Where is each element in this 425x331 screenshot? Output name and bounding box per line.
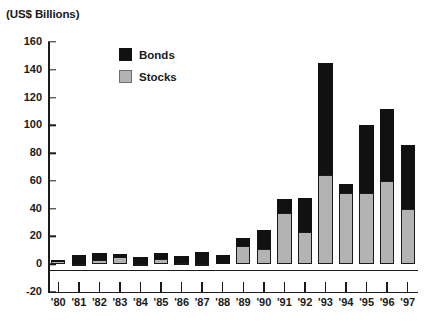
bar-segment-bonds [277,199,291,213]
stacked-bar-chart: (US$ Billions) 160140120100806040200-20 … [0,0,425,331]
legend-label-stocks: Stocks [139,71,177,83]
bar-segment-bonds [133,257,147,264]
x-tick [58,282,59,293]
bar-segment-bonds [92,253,106,260]
y-axis-title: (US$ Billions) [6,8,79,20]
legend-item-stocks: Stocks [119,70,177,83]
x-tick [386,282,387,293]
bar-segment-stocks [174,263,188,265]
x-tick-label: '89 [236,296,251,308]
x-tick [222,282,223,293]
y-tick-label: 60 [2,174,42,186]
y-tick [48,69,56,70]
bar-segment-stocks [318,175,332,264]
y-tick-label: 100 [2,118,42,130]
bar-segment-bonds [195,252,209,263]
bar-segment-bonds [236,238,250,246]
x-tick [304,282,305,293]
bar-segment-stocks [236,246,250,264]
bonds-swatch-icon [119,48,132,61]
x-tick [181,282,182,293]
bar-segment-bonds [359,125,373,193]
bar-segment-stocks [359,193,373,264]
x-tick-label: '82 [92,296,107,308]
bar-segment-stocks [277,213,291,264]
x-tick [345,282,346,293]
y-axis-spine [48,42,50,292]
bar-segment-stocks [195,264,209,266]
x-tick-label: '94 [339,296,354,308]
x-tick-label: '93 [318,296,333,308]
x-tick [140,282,141,293]
x-tick-label: '81 [71,296,86,308]
x-tick [407,282,408,293]
bar-segment-bonds [339,184,353,194]
y-tick-label: -20 [2,285,42,297]
bar-segment-bonds [298,198,312,233]
x-tick-label: '86 [174,296,189,308]
y-tick [48,41,56,42]
x-tick [284,282,285,293]
x-tick [78,282,79,293]
bar-segment-bonds [216,255,230,265]
bar-segment-bonds [380,109,394,181]
bar-segment-stocks [92,260,106,264]
bar-segment-stocks [72,264,86,266]
bar-segment-bonds [154,253,168,259]
x-tick-label: '95 [359,296,374,308]
x-tick-label: '90 [256,296,271,308]
bar-segment-stocks [113,257,127,264]
bar-segment-bonds [51,260,65,262]
x-tick-label: '97 [400,296,415,308]
y-tick [48,208,56,209]
y-tick-label: 20 [2,229,42,241]
x-tick-label: '85 [154,296,169,308]
bar-segment-stocks [133,264,147,266]
x-tick [243,282,244,293]
y-tick [48,180,56,181]
x-tick [201,282,202,293]
stocks-swatch-icon [119,70,132,83]
y-tick-label: 160 [2,35,42,47]
bar-segment-stocks [380,181,394,264]
y-tick [48,236,56,237]
y-tick-label: 0 [2,257,42,269]
x-tick [160,282,161,293]
bar-segment-stocks [339,193,353,264]
x-tick-label: '80 [51,296,66,308]
bar-segment-bonds [401,145,415,209]
y-tick [48,97,56,98]
x-tick-label: '92 [298,296,313,308]
x-tick-label: '87 [195,296,210,308]
x-tick-label: '88 [215,296,230,308]
bar-segment-bonds [257,230,271,249]
x-tick [119,282,120,293]
y-tick-label: 40 [2,202,42,214]
bar-segment-bonds [72,255,86,263]
bar-segment-bonds [318,63,332,176]
y-tick-label: 80 [2,146,42,158]
y-tick-label: 140 [2,63,42,75]
y-tick [48,291,56,292]
x-tick [99,282,100,293]
x-tick-label: '91 [277,296,292,308]
y-tick-label: 120 [2,91,42,103]
y-tick [48,125,56,126]
x-tick-label: '83 [113,296,128,308]
bar-segment-stocks [401,209,415,265]
x-axis-line [48,292,418,293]
x-tick [366,282,367,293]
x-tick-label: '96 [380,296,395,308]
bar-segment-bonds [174,256,188,263]
bar-segment-stocks [298,232,312,264]
x-tick-label: '84 [133,296,148,308]
x-tick [263,282,264,293]
legend-label-bonds: Bonds [139,49,175,61]
chart-legend: Bonds Stocks [119,48,177,92]
legend-item-bonds: Bonds [119,48,177,61]
bar-segment-bonds [113,254,127,257]
bar-segment-stocks [154,259,168,265]
zero-baseline [48,270,418,271]
bar-segment-stocks [257,249,271,264]
y-tick [48,152,56,153]
